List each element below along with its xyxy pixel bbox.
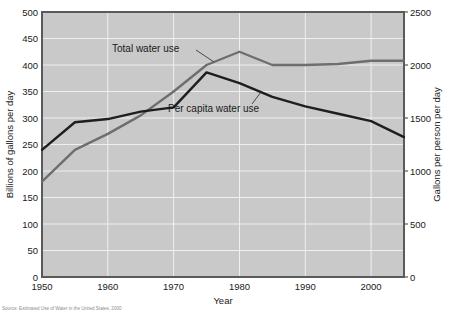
y-tick-450: 450 — [22, 33, 38, 44]
y-tick-100: 100 — [22, 219, 38, 230]
y-tick-250: 250 — [22, 139, 38, 150]
y-axis-left-ticklabels: 500 450 400 350 300 250 200 150 100 50 0 — [22, 7, 38, 283]
y2-tick-1500: 1500 — [410, 113, 431, 124]
x-tick-1980: 1980 — [229, 281, 250, 292]
source-note: Source: Estimated Use of Water in the Un… — [2, 306, 122, 311]
y-tick-300: 300 — [22, 113, 38, 124]
y-axis-right-title: Gallons per person per day — [431, 87, 442, 202]
water-use-chart: Total water use Per capita water use 500… — [0, 0, 450, 312]
y2-tick-0: 0 — [410, 272, 415, 283]
x-tick-2000: 2000 — [361, 281, 382, 292]
y-tick-500: 500 — [22, 7, 38, 18]
x-tick-1960: 1960 — [97, 281, 118, 292]
y-tick-50: 50 — [27, 245, 38, 256]
x-tick-1990: 1990 — [295, 281, 316, 292]
y2-tick-2500: 2500 — [410, 7, 431, 18]
y-tick-400: 400 — [22, 60, 38, 71]
y-tick-150: 150 — [22, 192, 38, 203]
annotation-per-capita-water-use: Per capita water use — [168, 103, 260, 114]
y-tick-350: 350 — [22, 86, 38, 97]
y-tick-200: 200 — [22, 166, 38, 177]
annotation-total-water-use: Total water use — [112, 43, 180, 54]
y2-tick-1000: 1000 — [410, 166, 431, 177]
x-axis-title: Year — [213, 295, 232, 306]
y2-tick-500: 500 — [410, 219, 426, 230]
x-tick-1950: 1950 — [31, 281, 52, 292]
y-axis-right-ticklabels: 2500 2000 1500 1000 500 0 — [410, 7, 431, 283]
y2-tick-2000: 2000 — [410, 60, 431, 71]
x-tick-1970: 1970 — [163, 281, 184, 292]
x-axis-ticklabels: 1950 1960 1970 1980 1990 2000 — [31, 281, 381, 292]
y-axis-left-title: Billions of gallons per day — [4, 90, 15, 198]
